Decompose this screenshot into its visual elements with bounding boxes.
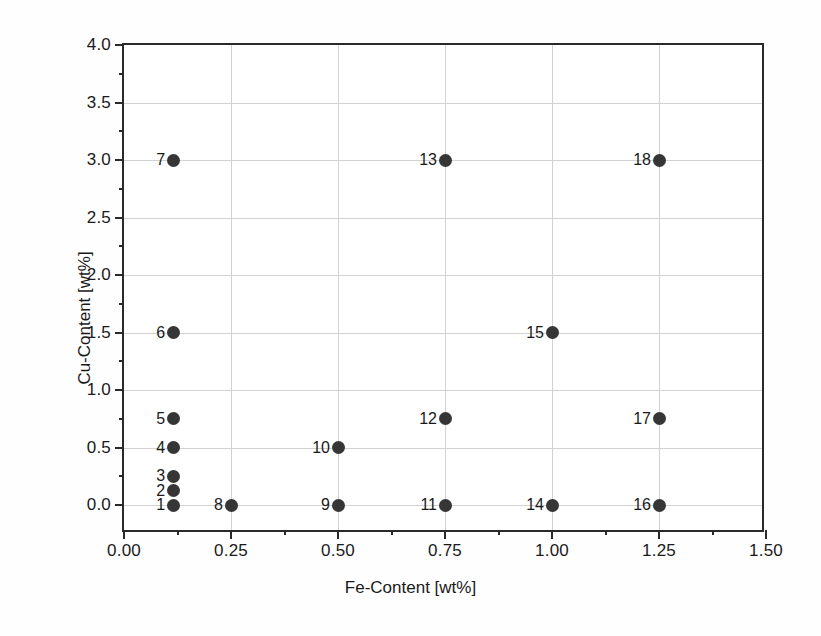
- data-point-label: 6: [156, 324, 165, 342]
- data-point[interactable]: [167, 499, 180, 512]
- y-tick-minor: [119, 188, 124, 190]
- data-point-label: 16: [633, 496, 651, 514]
- y-tick-major: [115, 159, 124, 161]
- data-point-label: 5: [156, 410, 165, 428]
- x-tick-major: [230, 530, 232, 539]
- data-point[interactable]: [167, 412, 180, 425]
- x-tick-minor: [605, 530, 607, 535]
- y-tick-label: 0.5: [87, 438, 111, 458]
- data-point[interactable]: [439, 412, 452, 425]
- y-tick-minor: [119, 73, 124, 75]
- x-tick-minor: [712, 530, 714, 535]
- data-point-label: 11: [420, 496, 437, 514]
- y-tick-label: 2.5: [87, 208, 111, 228]
- y-tick-minor: [119, 303, 124, 305]
- x-tick-major: [551, 530, 553, 539]
- data-point[interactable]: [653, 412, 666, 425]
- y-tick-major: [115, 102, 124, 104]
- figure-canvas: 123456789101112131415161718 0.00.51.01.5…: [0, 0, 821, 636]
- y-tick-major: [115, 389, 124, 391]
- data-point[interactable]: [653, 154, 666, 167]
- data-point[interactable]: [167, 484, 180, 497]
- x-tick-major: [658, 530, 660, 539]
- data-point[interactable]: [653, 499, 666, 512]
- data-point[interactable]: [167, 441, 180, 454]
- data-point-label: 15: [526, 324, 544, 342]
- data-point-label: 18: [633, 151, 651, 169]
- x-tick-major: [337, 530, 339, 539]
- x-tick-minor: [498, 530, 500, 535]
- data-point-label: 14: [526, 496, 544, 514]
- y-tick-minor: [119, 475, 124, 477]
- y-tick-minor: [119, 245, 124, 247]
- data-point[interactable]: [167, 470, 180, 483]
- data-point[interactable]: [439, 154, 452, 167]
- y-tick-label: 3.5: [87, 93, 111, 113]
- scatter-points: 123456789101112131415161718: [124, 45, 762, 530]
- data-point[interactable]: [332, 499, 345, 512]
- data-point-label: 9: [321, 496, 330, 514]
- y-tick-label: 3.0: [87, 150, 111, 170]
- y-axis-title: Cu-Content [wt%]: [75, 251, 95, 384]
- x-tick-major: [765, 530, 767, 539]
- x-tick-minor: [177, 530, 179, 535]
- y-tick-major: [115, 332, 124, 334]
- plot-area: 123456789101112131415161718 0.00.51.01.5…: [122, 43, 764, 532]
- x-tick-label: 0.25: [214, 541, 248, 561]
- data-point-label: 13: [419, 151, 437, 169]
- y-tick-major: [115, 44, 124, 46]
- y-tick-minor: [119, 418, 124, 420]
- y-tick-label: 4.0: [87, 35, 111, 55]
- x-tick-label: 1.50: [749, 541, 783, 561]
- x-tick-label: 0.00: [107, 541, 141, 561]
- x-tick-label: 1.00: [535, 541, 569, 561]
- y-tick-major: [115, 274, 124, 276]
- data-point[interactable]: [332, 441, 345, 454]
- y-tick-major: [115, 504, 124, 506]
- data-point[interactable]: [167, 154, 180, 167]
- x-tick-label: 0.75: [428, 541, 462, 561]
- data-point[interactable]: [167, 326, 180, 339]
- y-tick-minor: [119, 360, 124, 362]
- data-point-label: 8: [214, 496, 223, 514]
- data-point[interactable]: [225, 499, 238, 512]
- y-tick-major: [115, 447, 124, 449]
- y-tick-label: 0.0: [87, 495, 111, 515]
- data-point[interactable]: [439, 499, 452, 512]
- y-tick-minor: [119, 130, 124, 132]
- y-tick-major: [115, 217, 124, 219]
- x-tick-major: [123, 530, 125, 539]
- data-point-label: 17: [633, 410, 651, 428]
- x-axis-title: Fe-Content [wt%]: [0, 578, 821, 598]
- data-point-label: 4: [156, 439, 165, 457]
- x-tick-major: [444, 530, 446, 539]
- data-point[interactable]: [546, 326, 559, 339]
- data-point-label: 3: [156, 467, 165, 485]
- data-point[interactable]: [546, 499, 559, 512]
- data-point-label: 12: [419, 410, 437, 428]
- x-tick-label: 0.50: [321, 541, 355, 561]
- x-tick-label: 1.25: [642, 541, 676, 561]
- data-point-label: 7: [156, 151, 165, 169]
- x-tick-minor: [391, 530, 393, 535]
- data-point-label: 10: [312, 439, 330, 457]
- x-tick-minor: [284, 530, 286, 535]
